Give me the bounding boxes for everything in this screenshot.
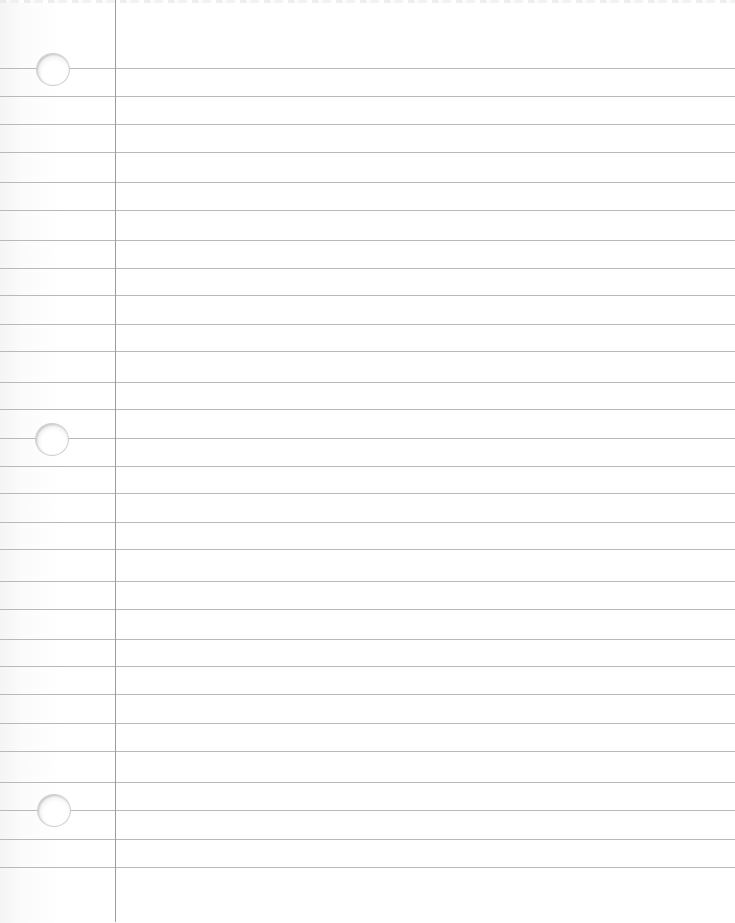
ruled-line <box>0 182 735 183</box>
ruled-line <box>0 466 735 467</box>
ruled-line <box>0 152 735 153</box>
notebook-paper <box>0 0 735 923</box>
ruled-line <box>0 694 735 695</box>
ruled-line <box>0 493 735 494</box>
ruled-line <box>0 351 735 352</box>
ruled-line <box>0 782 735 783</box>
paper-top-edge <box>0 0 735 3</box>
ruled-line <box>0 96 735 97</box>
ruled-line <box>0 210 735 211</box>
binder-hole <box>36 53 70 86</box>
ruled-line <box>0 124 735 125</box>
ruled-line <box>0 609 735 610</box>
ruled-line <box>0 839 735 840</box>
ruled-line <box>0 382 735 383</box>
ruled-line <box>0 409 735 410</box>
ruled-line <box>0 867 735 868</box>
ruled-line <box>0 268 735 269</box>
ruled-line <box>0 295 735 296</box>
ruled-line <box>0 549 735 550</box>
ruled-line <box>0 639 735 640</box>
ruled-line <box>0 751 735 752</box>
ruled-line <box>0 240 735 241</box>
ruled-line <box>0 666 735 667</box>
ruled-line <box>0 522 735 523</box>
ruled-line <box>0 324 735 325</box>
margin-line <box>115 0 116 922</box>
binder-hole <box>37 794 71 827</box>
ruled-line <box>0 438 735 439</box>
ruled-line <box>0 723 735 724</box>
ruled-line <box>0 581 735 582</box>
ruled-line <box>0 68 735 69</box>
ruled-line <box>0 810 735 811</box>
binder-hole <box>35 423 69 456</box>
